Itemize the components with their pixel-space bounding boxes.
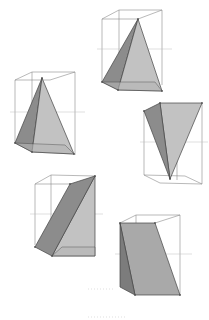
vertex [201, 102, 203, 104]
vertex [119, 222, 121, 224]
diagram-canvas [0, 0, 209, 320]
figure-pyramid-top [97, 10, 172, 92]
vertex [34, 246, 36, 248]
vertex [14, 142, 16, 144]
scan-artifacts [88, 289, 125, 317]
figure-inverted-pyramid [140, 102, 208, 184]
vertex [143, 110, 145, 112]
vertex [51, 255, 53, 257]
figure-pyramid-left [10, 72, 85, 155]
vertex [69, 183, 71, 185]
vertex [154, 222, 156, 224]
vertex [161, 90, 163, 92]
vertex-apex [137, 18, 139, 20]
vertex [134, 294, 136, 296]
vertex-apex [169, 178, 171, 180]
figure-wedge-left [30, 175, 103, 257]
vertex-apex [41, 77, 43, 79]
vertex [31, 151, 33, 153]
vertex [159, 102, 161, 104]
vertex [73, 153, 75, 155]
vertex [117, 89, 119, 91]
face-base [102, 82, 162, 91]
vertex [101, 81, 103, 83]
vertex [94, 175, 96, 177]
figure-wedge-right [115, 215, 192, 296]
vertex [179, 294, 181, 296]
